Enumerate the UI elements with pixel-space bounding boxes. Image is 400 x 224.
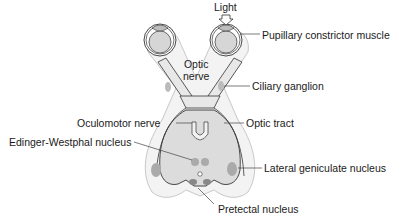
lateral-geniculate-left (151, 163, 161, 177)
label-oculomotor-nerve: Oculomotor nerve (77, 117, 160, 129)
ciliary-ganglion-left (165, 82, 171, 92)
edinger-westphal-left (191, 158, 199, 166)
pretectal-right (203, 179, 211, 185)
label-light: Light (214, 1, 237, 13)
label-optic-tract: Optic tract (246, 117, 294, 129)
optic-chiasm (180, 96, 220, 108)
eye-left (144, 24, 176, 56)
pretectal-left (189, 179, 197, 185)
label-optic-nerve: Optic nerve (183, 58, 209, 82)
ciliary-ganglion-right (218, 81, 224, 91)
eye-right (210, 24, 242, 56)
label-edinger-westphal-nucleus: Edinger-Westphal nucleus (9, 136, 131, 148)
label-pupillary-constrictor-muscle: Pupillary constrictor muscle (262, 29, 390, 41)
aqueduct-icon (198, 172, 202, 176)
lateral-geniculate-right (227, 162, 237, 176)
label-pretectal-nucleus: Pretectal nucleus (218, 203, 299, 215)
label-lateral-geniculate-nucleus: Lateral geniculate nucleus (264, 162, 386, 174)
edinger-westphal-right (201, 158, 209, 166)
light-arrow-icon (219, 15, 233, 25)
label-ciliary-ganglion: Ciliary ganglion (252, 80, 324, 92)
